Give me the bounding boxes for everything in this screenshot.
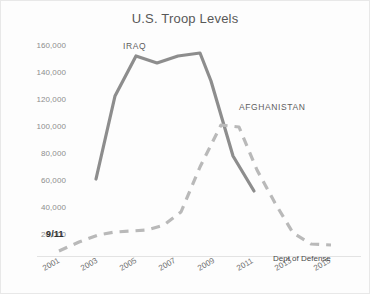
- troop-levels-chart: U.S. Troop Levels 160,000 140,000 120,00…: [0, 0, 370, 294]
- series-label-afghanistan: AFGHANISTAN: [239, 102, 305, 112]
- source-note: Dept of Defense: [273, 254, 331, 263]
- series-label-iraq: IRAQ: [123, 41, 146, 51]
- annotation-nine-eleven: 9/11: [46, 229, 64, 239]
- series-line-afghanistan: [59, 125, 331, 251]
- series-line-iraq: [96, 53, 254, 191]
- plot-area: [1, 1, 370, 294]
